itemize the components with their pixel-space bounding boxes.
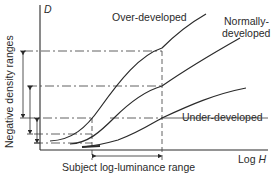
x-axis-label-prefix: Log bbox=[238, 153, 258, 165]
normally-developed-label-line1: Normally- bbox=[224, 16, 269, 28]
subject-log-luminance-range-label: Subject log-luminance range bbox=[62, 162, 195, 174]
x-axis-symbol: H bbox=[258, 153, 266, 165]
under-developed-label: Under-developed bbox=[182, 112, 263, 124]
y-axis-symbol: D bbox=[44, 4, 52, 16]
x-axis-label: Log H bbox=[238, 154, 266, 166]
under-developed-toe-bold bbox=[82, 146, 100, 147]
normally-developed-curve bbox=[70, 38, 240, 144]
density-range-arrows bbox=[23, 53, 37, 141]
normally-developed-label-line2: developed bbox=[222, 28, 270, 40]
negative-density-ranges-label: Negative density ranges bbox=[3, 35, 15, 148]
over-developed-label: Over-developed bbox=[112, 12, 187, 24]
